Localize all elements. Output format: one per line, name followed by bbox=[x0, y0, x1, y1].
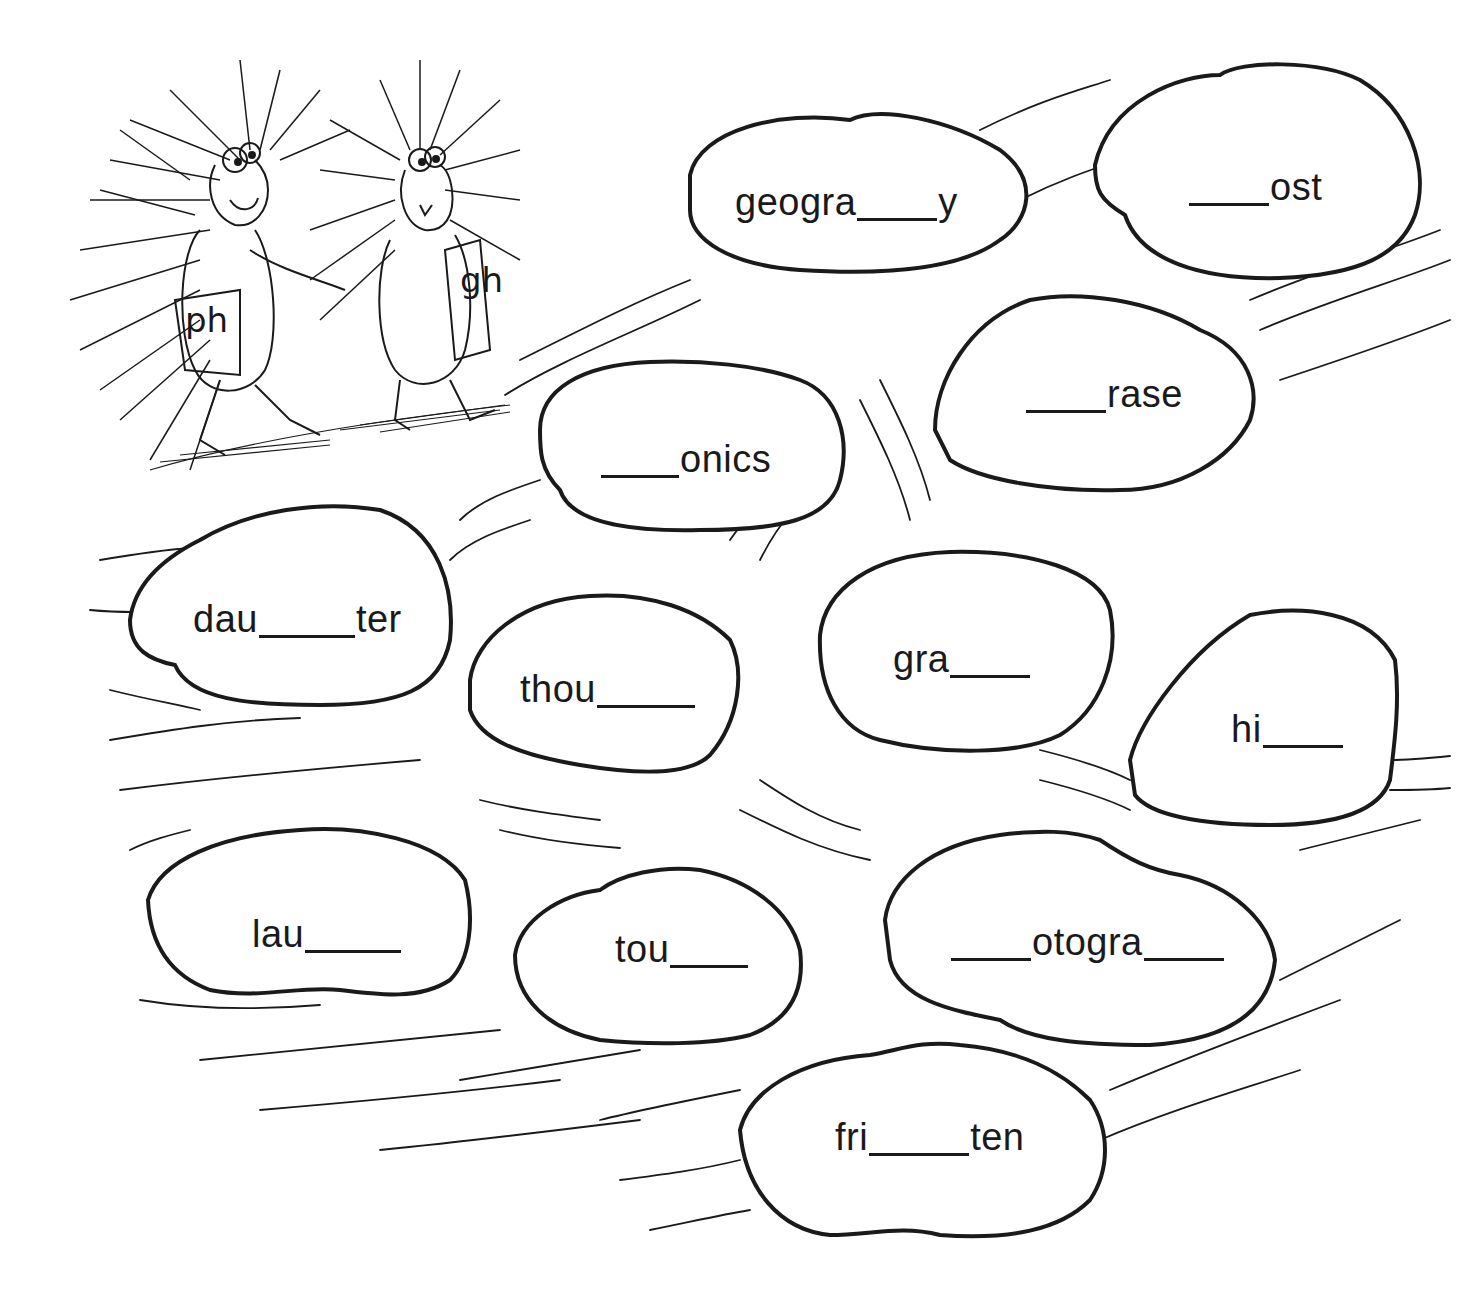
blank-input-photograph-start[interactable] bbox=[951, 928, 1031, 961]
blank-input-tough[interactable] bbox=[670, 935, 748, 968]
word-prefix: gra bbox=[893, 640, 949, 678]
word-prefix: fri bbox=[835, 1118, 868, 1156]
blank-input-graph[interactable] bbox=[950, 645, 1030, 678]
blank-input-geography[interactable] bbox=[857, 188, 937, 221]
word-ghost: ost bbox=[1188, 168, 1322, 206]
word-suffix: onics bbox=[680, 440, 771, 478]
blank-input-photograph-end[interactable] bbox=[1144, 928, 1224, 961]
porcupine-gh bbox=[310, 60, 520, 430]
word-suffix: rase bbox=[1107, 375, 1183, 413]
blank-input-thought[interactable] bbox=[597, 675, 695, 708]
blank-input-frighten[interactable] bbox=[869, 1123, 969, 1156]
word-suffix: ten bbox=[970, 1118, 1024, 1156]
word-laugh: lau bbox=[252, 915, 402, 953]
blank-input-phrase[interactable] bbox=[1026, 380, 1106, 413]
word-graph: gra bbox=[893, 640, 1031, 678]
gh-label: gh bbox=[460, 260, 503, 300]
word-prefix: tou bbox=[615, 930, 669, 968]
word-prefix: dau bbox=[193, 600, 258, 638]
word-suffix: ost bbox=[1270, 168, 1322, 206]
word-thought: thou bbox=[520, 670, 696, 708]
word-middle: otogra bbox=[1032, 923, 1143, 961]
word-frighten: fri ten bbox=[835, 1118, 1024, 1156]
word-high: hi bbox=[1231, 710, 1344, 748]
word-suffix: y bbox=[938, 183, 958, 221]
blank-input-phonics[interactable] bbox=[601, 445, 679, 478]
ph-label: ph bbox=[185, 300, 228, 340]
word-daughter: dau ter bbox=[193, 600, 402, 638]
word-phrase: rase bbox=[1025, 375, 1183, 413]
blank-input-ghost[interactable] bbox=[1189, 173, 1269, 206]
word-suffix: ter bbox=[356, 600, 402, 638]
word-prefix: geogra bbox=[735, 183, 856, 221]
word-phonics: onics bbox=[600, 440, 771, 478]
porcupine-ph bbox=[70, 60, 350, 470]
blank-input-daughter[interactable] bbox=[259, 605, 355, 638]
word-photograph: otogra bbox=[950, 920, 1225, 961]
word-prefix: lau bbox=[252, 915, 304, 953]
stones bbox=[130, 64, 1420, 1236]
ground-patch bbox=[150, 405, 510, 470]
word-prefix: thou bbox=[520, 670, 596, 708]
blank-input-laugh[interactable] bbox=[305, 920, 401, 953]
stone-laugh bbox=[148, 829, 470, 994]
blank-input-high[interactable] bbox=[1263, 715, 1343, 748]
word-tough: tou bbox=[615, 930, 749, 968]
word-geography: geogra y bbox=[735, 183, 958, 221]
word-prefix: hi bbox=[1231, 710, 1262, 748]
